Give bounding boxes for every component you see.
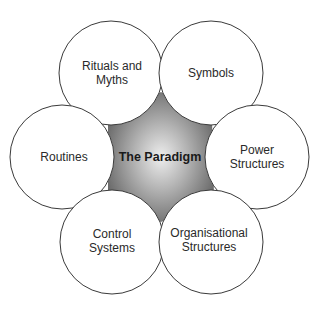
node-label-power-structures: Power Structures	[230, 143, 285, 171]
cultural-web-diagram: The Paradigm Rituals and Myths Symbols R…	[0, 0, 319, 309]
node-label-routines: Routines	[40, 150, 87, 164]
node-label-symbols: Symbols	[188, 66, 234, 80]
paradigm-label: The Paradigm	[119, 150, 202, 164]
node-label-organisational-structures: Organisational Structures	[170, 226, 247, 254]
node-label-rituals-and-myths: Rituals and Myths	[82, 59, 142, 87]
node-label-control-systems: Control Systems	[89, 227, 135, 255]
